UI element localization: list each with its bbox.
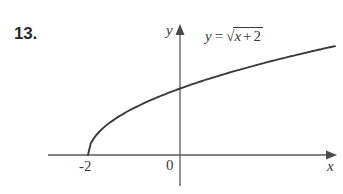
sqrt-curve: [88, 46, 335, 155]
graph-figure: 13. y x 0 -2 y=√x+2: [0, 0, 343, 194]
radicand-constant: 2: [254, 28, 262, 44]
origin-tick-label: 0: [166, 157, 174, 174]
radicand-variable: x: [234, 28, 241, 44]
equation-annotation: y=√x+2: [205, 27, 263, 45]
y-axis-arrowhead: [176, 24, 185, 35]
equation-lhs: y: [205, 28, 212, 44]
equation-equals: =: [215, 28, 223, 44]
curve-guide: [88, 52, 180, 155]
radicand-operator: +: [243, 28, 251, 44]
radical-expression: √x+2: [226, 27, 263, 45]
y-axis-label: y: [166, 22, 173, 39]
x-axis-label: x: [327, 158, 334, 175]
curve-unused: [88, 86, 180, 155]
radicand: x+2: [233, 27, 263, 45]
x-intercept-tick-label: -2: [79, 158, 92, 175]
